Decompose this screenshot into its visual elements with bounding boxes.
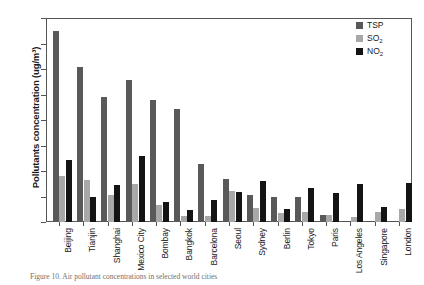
x-axis-tickmark [326,222,327,226]
legend-swatch-icon [356,48,363,55]
x-axis-tickmark [108,222,109,226]
bar-group [77,19,95,222]
x-axis-label-los-angeles: Los Angeles [354,228,364,273]
x-axis-label-tianjin: Tianjin [87,228,97,252]
legend-item-tsp[interactable]: TSP [356,20,384,30]
x-axis-label-berlin: Berlin [282,228,292,249]
bar-tsp-bangkok [174,109,180,222]
bar-so2-tianjin [84,180,90,222]
bar-so2-tokyo [302,212,308,222]
bar-tsp-bombay [150,100,156,222]
bar-tsp-shanghai [101,97,107,222]
bar-so2-sydney [253,208,259,222]
legend-label: SO2 [367,33,383,43]
x-axis-tickmark [350,222,351,226]
bar-no2-singapore [381,207,387,222]
bar-so2-barcelona [205,216,211,222]
bar-tsp-seoul [223,179,229,222]
bar-group [271,19,289,222]
bar-group [53,19,71,222]
x-axis-tickmark [59,222,60,226]
bar-tsp-barcelona [198,164,204,222]
bar-so2-paris [326,215,332,222]
legend-swatch-icon [356,22,363,29]
bar-group [247,19,265,222]
legend-label: NO2 [367,46,383,56]
bar-group [126,19,144,222]
bar-group [393,19,411,222]
bar-so2-los-angeles [351,217,357,222]
legend-swatch-icon [356,35,363,42]
legend-item-no2[interactable]: NO2 [356,46,384,56]
x-axis-label-bangkok: Bangkok [184,228,194,260]
legend-label: TSP [367,20,384,30]
x-axis-label-tokyo: Tokyo [306,228,316,250]
bar-tsp-paris [320,215,326,222]
x-axis-label-sydney: Sydney [257,228,267,256]
bar-no2-seoul [236,192,242,222]
bar-so2-bangkok [181,216,187,222]
bar-group [223,19,241,222]
x-axis-tickmark [180,222,181,226]
legend-label-subscript: 2 [380,51,383,57]
bar-tsp-sydney [247,195,253,222]
bar-so2-london [399,209,405,222]
bar-so2-bombay [156,205,162,222]
x-axis-tickmark [302,222,303,226]
y-axis-title: Pollutants concentration (ug/m³) [30,13,41,223]
bar-tsp-beijing [53,31,59,222]
bar-group [150,19,168,222]
legend-item-so2[interactable]: SO2 [356,33,384,43]
bar-group [101,19,119,222]
bar-group [174,19,192,222]
x-axis-label-seoul: Seoul [233,228,243,249]
bar-no2-paris [333,193,339,222]
x-axis-tickmark [399,222,400,226]
x-axis-tickmark [156,222,157,226]
x-axis-tickmark [229,222,230,226]
y-axis-tickmark [41,222,46,223]
bar-tsp-berlin [271,197,277,222]
x-axis-label-london: London [403,228,413,256]
chart-legend: TSPSO2NO2 [356,20,384,56]
x-axis-label-singapore: Singapore [379,228,389,266]
bar-no2-shanghai [114,185,120,222]
figure-caption: Figure 10. Air pollutant concentrations … [30,272,410,281]
bar-so2-berlin [278,213,284,222]
bar-no2-barcelona [211,200,217,222]
bar-tsp-tianjin [77,67,83,222]
x-axis-tickmark [205,222,206,226]
x-axis-tickmark [132,222,133,226]
bar-no2-beijing [66,160,72,222]
bar-no2-london [406,183,412,222]
bar-tsp-mexico-city [126,80,132,222]
x-axis-label-barcelona: Barcelona [209,228,219,265]
x-axis-tickmark [83,222,84,226]
bar-no2-mexico-city [139,156,145,222]
bar-so2-singapore [375,212,381,222]
x-axis-tickmark [278,222,279,226]
bar-so2-shanghai [108,195,114,222]
bar-no2-sydney [260,181,266,222]
x-axis-label-shanghai: Shanghai [112,228,122,263]
legend-label-subscript: 2 [379,38,382,44]
chart-page: Pollutants concentration (ug/m³) 0501001… [0,0,424,285]
bar-group [320,19,338,222]
bar-group [295,19,313,222]
bar-tsp-tokyo [295,197,301,222]
bar-no2-tokyo [308,188,314,223]
bar-no2-bangkok [187,210,193,222]
bar-no2-tianjin [90,197,96,222]
bar-no2-los-angeles [357,184,363,222]
x-axis-label-beijing: Beijing [63,228,73,253]
bar-so2-seoul [229,191,235,222]
x-axis-label-mexico-city: Mexico City [136,228,146,271]
x-axis-tickmark [253,222,254,226]
bar-no2-berlin [284,209,290,222]
x-axis-label-bombay: Bombay [160,228,170,259]
bar-group [198,19,216,222]
bar-so2-beijing [59,176,65,222]
x-axis-tickmark [375,222,376,226]
x-axis-label-paris: Paris [330,228,340,247]
bar-no2-bombay [163,202,169,222]
